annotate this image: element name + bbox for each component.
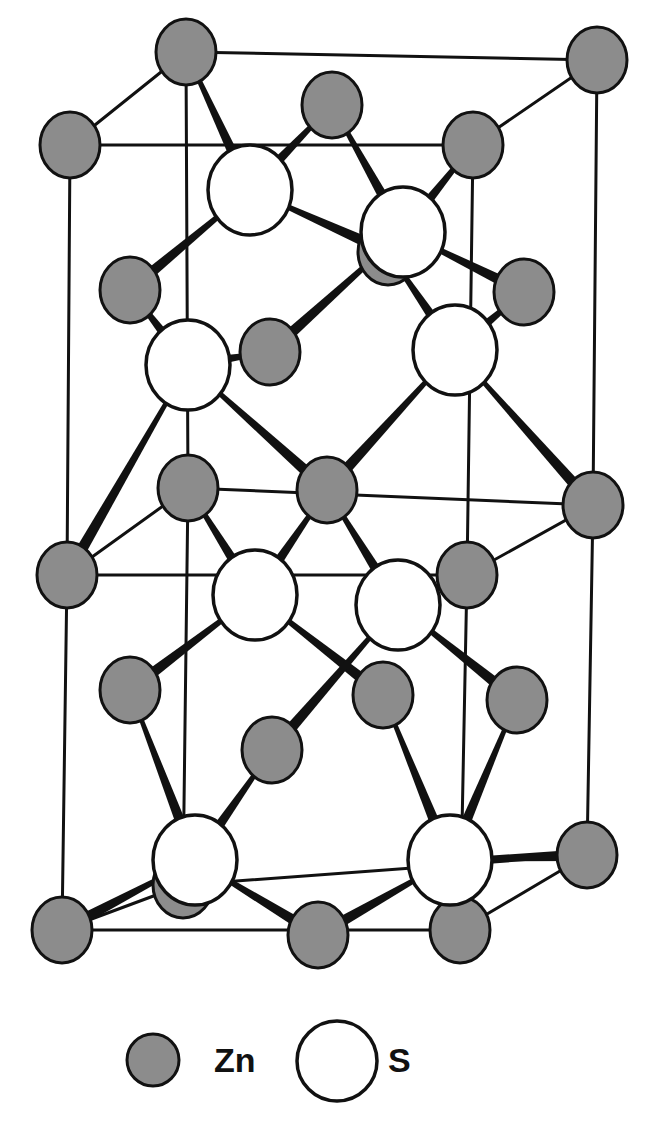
zn-atom <box>353 662 413 728</box>
zn-atom <box>487 667 547 733</box>
s-atom <box>413 305 497 395</box>
atoms <box>32 19 627 968</box>
zn-atom <box>567 27 627 93</box>
zinc-blende-unit-cell-diagram: Zn S <box>0 0 645 1137</box>
cell-edge <box>587 505 593 855</box>
cell-edge <box>186 52 188 488</box>
legend-zn-icon <box>127 1034 179 1086</box>
s-atom <box>361 187 445 277</box>
legend-s-label: S <box>388 1041 411 1079</box>
s-atom <box>213 550 297 640</box>
cell-edge <box>62 575 67 930</box>
legend-s-icon <box>297 1021 377 1101</box>
zn-atom <box>288 902 348 968</box>
zn-atom <box>100 657 160 723</box>
legend: Zn S <box>127 1021 411 1101</box>
zn-atom <box>437 542 497 608</box>
zn-atom <box>37 542 97 608</box>
cell-edge <box>186 52 597 60</box>
s-atom <box>408 815 492 905</box>
cell-edge <box>67 145 70 575</box>
zn-atom <box>494 259 554 325</box>
legend-zn-label: Zn <box>214 1041 256 1079</box>
zn-atom <box>156 19 216 85</box>
zn-atom <box>557 822 617 888</box>
s-atom <box>356 560 440 650</box>
s-atom <box>208 145 292 235</box>
zn-atom <box>240 319 300 385</box>
zn-atom <box>242 717 302 783</box>
zn-atom <box>563 472 623 538</box>
zn-atom <box>32 897 92 963</box>
zn-atom <box>297 457 357 523</box>
zn-atom <box>302 72 362 138</box>
cell-edge <box>593 60 597 505</box>
zn-atom <box>443 112 503 178</box>
cell-edge <box>188 488 593 505</box>
zn-atom <box>158 455 218 521</box>
s-atom <box>153 815 237 905</box>
zn-atom <box>40 112 100 178</box>
zn-atom <box>100 257 160 323</box>
zn-atom <box>430 897 490 963</box>
s-atom <box>146 320 230 410</box>
